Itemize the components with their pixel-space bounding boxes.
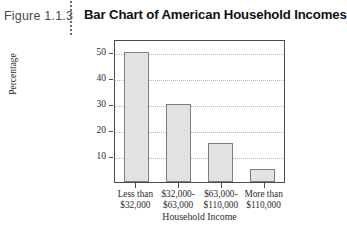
y-axis-tick-label: 50 [88, 47, 106, 57]
page-title: Bar Chart of American Household Incomes [84, 7, 347, 22]
y-axis-tick-label: 10 [88, 151, 106, 161]
y-axis-tick-mark [109, 105, 113, 106]
x-axis-tick-label-line1: More than [244, 189, 282, 199]
y-axis-tick-label: 30 [88, 99, 106, 109]
y-axis-tick-mark [109, 157, 113, 158]
y-axis-tick-mark [109, 53, 113, 54]
bar [124, 52, 149, 182]
x-axis-tick-mark [135, 183, 136, 188]
x-axis-title: Household Income [114, 211, 285, 222]
vertical-dotted-rule-icon [70, 1, 72, 35]
bar [166, 104, 191, 182]
bar [250, 169, 275, 182]
y-axis-tick-label: 40 [88, 73, 106, 83]
y-axis-tick-label: 20 [88, 125, 106, 135]
y-axis-tick-mark [109, 79, 113, 80]
x-axis-tick-label-line2: $110,000 [233, 200, 295, 211]
x-axis-tick-label: More than$110,000 [233, 189, 295, 210]
x-axis-tick-mark [264, 183, 265, 188]
x-axis-tick-mark [178, 183, 179, 188]
bar [208, 143, 233, 182]
bar-series [115, 41, 284, 182]
figure-caption: Figure 1.1.3 [4, 9, 73, 23]
x-axis-tick-mark [221, 183, 222, 188]
y-axis-tick-mark [109, 131, 113, 132]
y-axis-title: Percentage [8, 32, 18, 116]
chart-plot-area [114, 40, 285, 183]
